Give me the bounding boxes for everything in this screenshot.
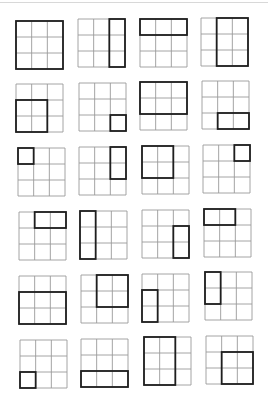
highlight-rect [140,19,187,35]
grid-1 [16,21,63,69]
grid-11 [142,146,189,194]
grid-15 [142,210,189,258]
highlight-rect [109,19,125,67]
grid-23 [144,337,191,385]
grid-6 [79,83,126,131]
highlight-rect [81,371,128,387]
top-divider-line [0,2,268,3]
highlight-rect [20,372,36,388]
grid-19 [142,274,189,322]
grid-17 [19,276,66,324]
grid-14 [80,211,127,259]
grid-4 [201,18,248,66]
grid-3 [140,19,187,67]
grid-7 [140,82,187,130]
highlight-rect [80,211,96,259]
grid-24 [206,336,253,384]
grid-5 [16,84,63,132]
grid-22 [81,339,128,387]
grid-13 [19,212,66,260]
grid-18 [81,275,128,323]
highlight-rect [18,148,34,164]
highlight-rect [110,115,126,131]
grid-20 [205,272,252,320]
grid-2 [78,19,125,67]
grid-16 [204,209,251,257]
grid-21 [20,340,67,388]
grid-10 [79,147,126,195]
grid-12 [203,145,250,193]
grid-9 [18,148,65,196]
grid-8 [202,81,249,129]
highlight-rect [16,21,63,69]
highlight-rect [234,145,250,161]
